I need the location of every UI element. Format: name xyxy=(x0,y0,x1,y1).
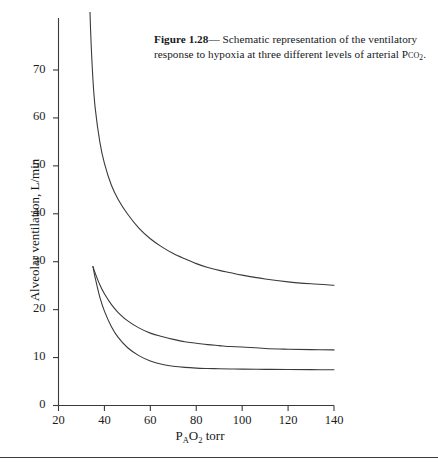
y-axis-title: Alveolar ventilation, L/min xyxy=(27,125,43,335)
footer-divider xyxy=(0,457,438,458)
x-axis-title: PAO2 torr xyxy=(120,428,280,445)
y-tick-label: 0 xyxy=(16,397,46,412)
x-tick-label: 80 xyxy=(176,413,216,428)
x-tick-label: 60 xyxy=(130,413,170,428)
y-tick-label: 10 xyxy=(16,349,46,364)
chart-curve-2 xyxy=(93,267,334,350)
figure-page: Figure 1.28— Schematic representation of… xyxy=(0,0,438,471)
chart-svg xyxy=(0,0,438,471)
chart-plot-area: 010203040506070 20406080100120140 Alveol… xyxy=(0,0,438,471)
chart-curve-1 xyxy=(89,0,334,285)
y-tick-label: 60 xyxy=(16,109,46,124)
y-tick-label: 70 xyxy=(16,62,46,77)
x-tick-label: 20 xyxy=(39,413,79,428)
y-axis-ticks xyxy=(53,70,59,406)
x-title-o: O xyxy=(189,428,198,443)
x-tick-label: 100 xyxy=(222,413,262,428)
x-title-unit: torr xyxy=(202,428,224,443)
x-tick-label: 140 xyxy=(314,413,354,428)
x-axis-ticks xyxy=(59,406,335,412)
x-tick-label: 40 xyxy=(84,413,124,428)
x-title-p: P xyxy=(175,428,182,443)
x-tick-label: 120 xyxy=(268,413,308,428)
chart-curves xyxy=(89,0,334,370)
chart-curve-3 xyxy=(93,267,334,370)
